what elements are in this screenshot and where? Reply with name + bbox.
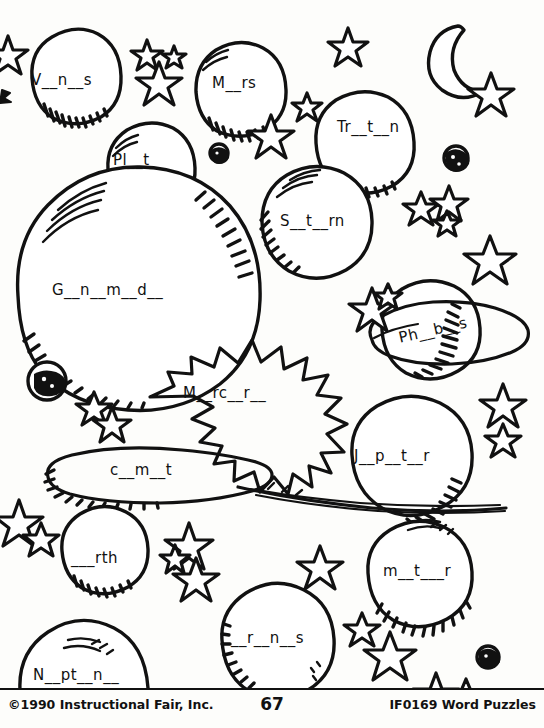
planet-meteor-shape xyxy=(368,520,472,636)
footer-row: ©1990 Instructional Fair, Inc. 67 IF0169… xyxy=(6,690,538,728)
worksheet-page: .ln { fill:none; stroke:#111; stroke-wid… xyxy=(0,0,544,728)
planet-neptune-shape xyxy=(20,620,148,690)
small-moon-bottom-right xyxy=(477,646,500,669)
small-moon-left xyxy=(28,362,66,400)
space-scene-drawing: .ln { fill:none; stroke:#111; stroke-wid… xyxy=(0,0,544,690)
illustration-artboard: .ln { fill:none; stroke:#111; stroke-wid… xyxy=(0,0,544,690)
small-moon-triton-right xyxy=(444,146,469,172)
planet-uranus-shape xyxy=(222,583,334,690)
planet-venus-shape xyxy=(32,29,121,127)
planet-saturn-shape xyxy=(261,166,372,278)
planet-earth-shape xyxy=(62,506,148,597)
crescent-moon-icon xyxy=(429,26,483,98)
page-footer: ©1990 Instructional Fair, Inc. 67 IF0169… xyxy=(0,688,544,728)
small-moon-pluto-right xyxy=(210,144,229,164)
footer-product-code: IF0169 Word Puzzles xyxy=(389,697,536,712)
